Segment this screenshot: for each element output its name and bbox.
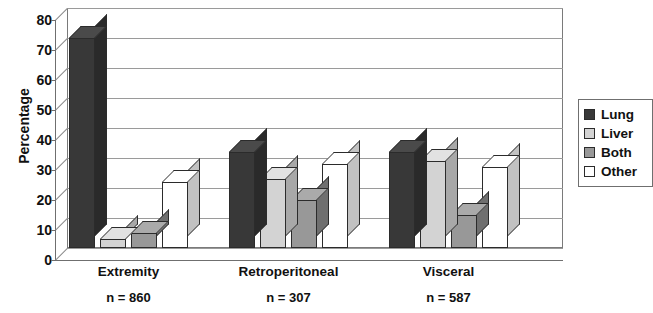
x-axis-category-sample-size: n = 587: [359, 290, 539, 305]
x-axis-category-label: Visceral: [359, 264, 539, 279]
plot-area: [55, 8, 563, 260]
bar-side-face: [95, 14, 107, 236]
x-axis-category-sample-size: n = 860: [39, 290, 219, 305]
x-axis-category: Retroperitonealn = 307: [199, 264, 379, 305]
y-axis-tick-label: 20: [18, 192, 52, 208]
y-axis-tick-mark: [51, 50, 56, 51]
y-axis-tick-mark: [51, 110, 56, 111]
y-axis-tick-label: 80: [18, 12, 52, 28]
bar-chart: Percentage 01020304050607080 Extremityn …: [0, 0, 653, 313]
gridline: [67, 38, 563, 39]
legend-swatch-liver: [584, 128, 595, 139]
gridline: [67, 98, 563, 99]
legend-label: Both: [601, 146, 632, 160]
y-axis-tick-mark: [51, 260, 56, 261]
legend-swatch-both: [584, 147, 595, 158]
y-axis-tick-label: 30: [18, 162, 52, 178]
bar-front-face: [100, 239, 126, 248]
y-axis-tick-mark: [51, 80, 56, 81]
gridline: [67, 248, 563, 249]
x-axis-category: Visceraln = 587: [359, 264, 539, 305]
bars-layer: [55, 8, 563, 261]
bar: [131, 233, 157, 248]
x-axis-category-sample-size: n = 307: [199, 290, 379, 305]
y-axis-tick-mark: [51, 200, 56, 201]
y-axis-tick-label: 50: [18, 102, 52, 118]
bar-front-face: [69, 38, 95, 248]
y-axis-tick-label: 10: [18, 222, 52, 238]
legend-item: Lung: [584, 105, 648, 124]
legend-swatch-lung: [584, 109, 595, 120]
legend-item: Other: [584, 162, 648, 181]
legend-label: Other: [601, 165, 637, 179]
bar: [100, 239, 126, 248]
bar-front-face: [389, 152, 415, 248]
x-axis-category-labels: Extremityn = 860Retroperitonealn = 307Vi…: [55, 264, 563, 313]
y-axis-tick-label: 70: [18, 42, 52, 58]
y-axis-tick-mark: [51, 170, 56, 171]
y-axis-tick-mark: [51, 140, 56, 141]
x-axis-category-label: Extremity: [39, 264, 219, 279]
x-axis-category: Extremityn = 860: [39, 264, 219, 305]
bar-front-face: [131, 233, 157, 248]
bar: [69, 38, 95, 248]
chart-legend: LungLiverBothOther: [578, 99, 653, 187]
x-axis-category-label: Retroperitoneal: [199, 264, 379, 279]
y-axis-tick-mark: [51, 20, 56, 21]
bar: [229, 152, 255, 248]
gridline: [67, 8, 563, 9]
legend-label: Liver: [601, 127, 633, 141]
y-axis-tick-label: 40: [18, 132, 52, 148]
bar: [389, 152, 415, 248]
legend-label: Lung: [601, 108, 634, 122]
gridline: [67, 68, 563, 69]
gridline: [67, 128, 563, 129]
legend-item: Both: [584, 143, 648, 162]
y-axis-tick-label: 60: [18, 72, 52, 88]
legend-item: Liver: [584, 124, 648, 143]
y-axis-tick-mark: [51, 230, 56, 231]
bar-front-face: [229, 152, 255, 248]
legend-swatch-other: [584, 166, 595, 177]
